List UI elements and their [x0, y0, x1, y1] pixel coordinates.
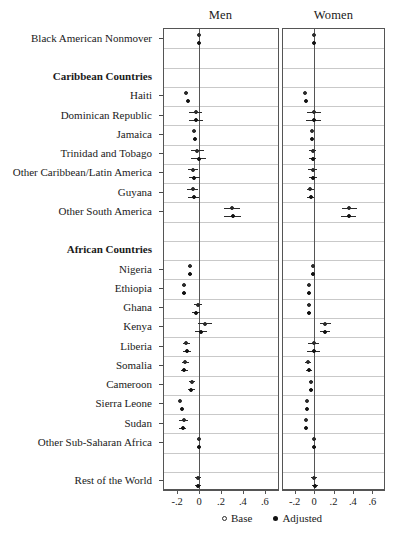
category-label: Liberia	[120, 340, 152, 352]
category-label: Ethiopia	[115, 282, 152, 294]
grid-line	[283, 356, 384, 357]
x-axis-tick-label: .6	[251, 496, 279, 507]
panel-title-women: Women	[282, 8, 385, 23]
data-point-adjusted	[188, 272, 192, 276]
grid-line	[283, 183, 384, 184]
data-point-adjusted	[189, 388, 193, 392]
data-point-base	[303, 91, 307, 95]
data-point-base	[184, 91, 188, 95]
data-point-adjusted	[192, 195, 196, 199]
data-point-base	[178, 399, 182, 403]
panel-title-men: Men	[163, 8, 278, 23]
grid-line	[283, 241, 384, 242]
category-label: Ghana	[123, 301, 152, 313]
grid-line	[283, 453, 384, 454]
open-circle-icon	[222, 516, 227, 521]
filled-circle-icon	[273, 516, 278, 521]
category-label: Nigeria	[119, 263, 152, 275]
category-label: Cameroon	[106, 378, 152, 390]
grid-line	[164, 145, 278, 146]
data-point-base	[196, 303, 200, 307]
data-point-adjusted	[307, 368, 311, 372]
category-label: Sierra Leone	[96, 397, 153, 409]
category-label: Caribbean Countries	[53, 70, 152, 82]
grid-line	[164, 414, 278, 415]
data-point-base	[230, 206, 234, 210]
grid-line	[164, 106, 278, 107]
data-point-base	[191, 168, 195, 172]
grid-line	[164, 125, 278, 126]
grid-line	[164, 279, 278, 280]
data-point-adjusted	[185, 349, 189, 353]
grid-line	[164, 222, 278, 223]
data-point-base	[196, 476, 200, 480]
data-point-base	[311, 149, 315, 153]
data-point-base	[312, 341, 316, 345]
grid-line	[164, 202, 278, 203]
data-point-adjusted	[186, 99, 190, 103]
data-point-base	[304, 418, 308, 422]
data-point-base	[312, 476, 316, 480]
data-point-base	[191, 187, 195, 191]
data-point-base	[188, 264, 192, 268]
data-point-base	[197, 33, 201, 37]
category-label: Rest of the World	[75, 474, 152, 486]
data-point-adjusted	[312, 41, 316, 45]
category-label: Trinidad and Tobago	[60, 147, 152, 159]
data-point-adjusted	[307, 291, 311, 295]
data-point-base	[182, 418, 186, 422]
plot-panel-men	[163, 28, 279, 490]
data-point-adjusted	[196, 484, 200, 488]
x-axis-tick	[372, 490, 373, 494]
zero-reference-line	[199, 29, 200, 489]
grid-line	[283, 337, 384, 338]
data-point-adjusted	[197, 157, 201, 161]
data-point-base	[311, 168, 315, 172]
x-axis-tick	[177, 490, 178, 494]
data-point-adjusted	[231, 214, 235, 218]
grid-line	[164, 164, 278, 165]
data-point-adjusted	[194, 118, 198, 122]
data-point-adjusted	[304, 99, 308, 103]
grid-line	[283, 68, 384, 69]
x-axis-tick	[243, 490, 244, 494]
grid-line	[283, 318, 384, 319]
data-point-adjusted	[309, 195, 313, 199]
data-point-adjusted	[194, 311, 198, 315]
grid-line	[164, 395, 278, 396]
category-label: African Countries	[67, 243, 152, 255]
grid-line	[164, 453, 278, 454]
category-label: Dominican Republic	[61, 109, 152, 121]
grid-line	[283, 395, 384, 396]
grid-line	[164, 183, 278, 184]
data-point-adjusted	[182, 368, 186, 372]
category-label: Other Caribbean/Latin America	[13, 166, 152, 178]
grid-line	[283, 87, 384, 88]
forest-plot-figure: Men Women Black American NonmoverCaribbe…	[0, 0, 394, 534]
grid-line	[283, 414, 384, 415]
data-point-base	[323, 322, 327, 326]
data-point-base	[306, 360, 310, 364]
data-point-base	[307, 283, 311, 287]
data-point-adjusted	[313, 484, 317, 488]
legend-item-adjusted: Adjusted	[273, 512, 322, 524]
data-point-adjusted	[309, 388, 313, 392]
data-point-adjusted	[347, 214, 351, 218]
x-axis-tick	[353, 490, 354, 494]
grid-line	[164, 260, 278, 261]
grid-line	[283, 106, 384, 107]
grid-line	[164, 376, 278, 377]
category-label: Black American Nonmover	[31, 32, 152, 44]
data-point-base	[184, 341, 188, 345]
grid-line	[283, 376, 384, 377]
data-point-adjusted	[323, 330, 327, 334]
grid-line	[283, 279, 384, 280]
data-point-base	[347, 206, 351, 210]
legend: Base Adjusted	[222, 512, 322, 524]
x-axis-tick	[314, 490, 315, 494]
data-point-adjusted	[180, 407, 184, 411]
data-point-adjusted	[304, 426, 308, 430]
grid-line	[283, 145, 384, 146]
grid-line	[283, 472, 384, 473]
grid-line	[164, 318, 278, 319]
